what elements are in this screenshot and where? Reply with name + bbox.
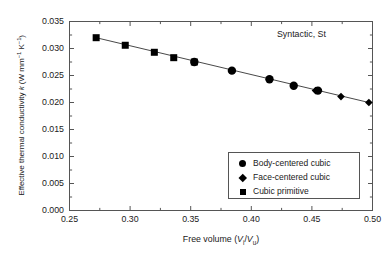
legend-label: Cubic primitive	[253, 186, 309, 196]
y-axis-tick-label: 0.035	[24, 17, 64, 26]
data-point	[337, 93, 345, 101]
square-glyph	[240, 189, 246, 195]
y-axis-exponent-2: −1	[16, 38, 22, 45]
y-axis-unit-close: )	[17, 35, 26, 38]
chart-figure: 0.0000.0050.0100.0150.0200.0250.0300.035…	[0, 0, 389, 265]
x-axis-label-prefix: Free volume (	[183, 234, 237, 244]
data-markers	[93, 34, 373, 106]
data-point	[93, 34, 100, 41]
x-axis-tick-label: 0.45	[292, 215, 332, 224]
y-axis-unit-open: (W mm	[17, 58, 26, 86]
legend-label: Face-centered cubic	[253, 172, 330, 182]
y-axis-tick-label: 0.000	[24, 206, 64, 215]
x-axis-tick-label: 0.50	[353, 215, 389, 224]
chart-annotation: Syntactic, St	[277, 29, 326, 39]
y-axis-symbol-k: k	[17, 86, 26, 90]
y-axis-unit-mid: K	[17, 44, 26, 52]
x-axis-tick-label: 0.35	[171, 215, 211, 224]
x-axis-tick-label: 0.40	[231, 215, 271, 224]
data-point	[170, 54, 177, 61]
x-axis-tick-label: 0.30	[110, 215, 150, 224]
data-point	[228, 66, 236, 74]
legend-label: Body-centered cubic	[253, 158, 331, 168]
data-point	[265, 75, 273, 83]
x-axis-tick-labels: 0.250.300.350.400.450.50	[0, 215, 389, 229]
data-point	[122, 42, 129, 49]
y-axis-tick-label: 0.025	[24, 71, 64, 80]
circle-glyph	[239, 160, 246, 167]
y-axis-label-text: Effective thermal conductivity	[17, 90, 26, 195]
y-axis-tick-label: 0.030	[24, 44, 64, 53]
y-axis-exponent-1: −1	[16, 52, 22, 59]
x-axis-tick-label: 0.25	[50, 215, 90, 224]
legend-item-square: Cubic primitive	[229, 184, 359, 198]
x-axis-label-suffix: )	[256, 234, 259, 244]
x-axis-label: Free volume (Vi/Vu)	[69, 234, 373, 246]
legend-item-circle: Body-centered cubic	[229, 156, 359, 170]
y-axis-tick-label: 0.010	[24, 152, 64, 161]
y-axis-label: Effective thermal conductivity k (W mm−1…	[16, 15, 27, 215]
square-marker-icon	[237, 185, 249, 197]
circle-marker-icon	[237, 157, 249, 169]
y-axis-tick-label: 0.015	[24, 125, 64, 134]
data-point	[290, 82, 298, 90]
chart-legend: Body-centered cubicFace-centered cubicCu…	[228, 152, 360, 199]
y-axis-tick-label: 0.020	[24, 98, 64, 107]
data-point	[190, 58, 198, 66]
diamond-marker-icon	[237, 171, 249, 183]
y-axis-tick-label: 0.005	[24, 179, 64, 188]
data-point	[365, 99, 373, 107]
data-point	[151, 49, 158, 56]
legend-item-diamond: Face-centered cubic	[229, 170, 359, 184]
diamond-glyph	[238, 173, 246, 181]
